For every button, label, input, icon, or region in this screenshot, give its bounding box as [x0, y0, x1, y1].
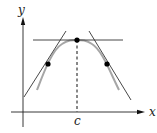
- maximum-point: [74, 37, 79, 42]
- left-point: [45, 61, 50, 66]
- y-axis-label: y: [17, 3, 25, 17]
- y-axis: y: [17, 3, 25, 127]
- right-tangent-line: [89, 31, 131, 100]
- x-axis-arrow-icon: [137, 110, 145, 114]
- c-label: c: [74, 114, 81, 128]
- function-graph: y x c: [0, 0, 157, 133]
- x-axis-label: x: [149, 105, 156, 119]
- x-axis: x: [11, 105, 156, 119]
- right-point: [104, 61, 109, 66]
- y-axis-arrow-icon: [21, 17, 25, 25]
- left-tangent-line: [24, 31, 66, 97]
